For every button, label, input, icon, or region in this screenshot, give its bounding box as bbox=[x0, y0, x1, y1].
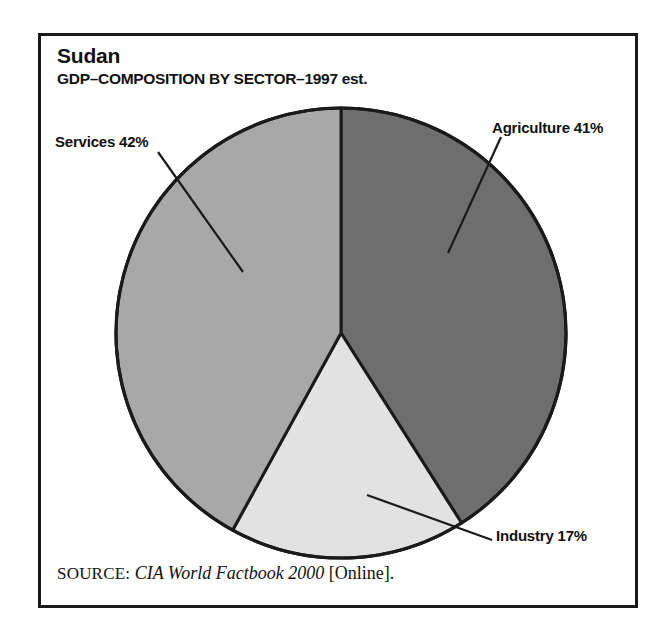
pie-chart-figure: Sudan GDP–COMPOSITION BY SECTOR–1997 est… bbox=[0, 0, 663, 635]
source-work-title: CIA World Factbook 2000 bbox=[135, 563, 325, 583]
pie-label-services: Services 42% bbox=[55, 133, 149, 150]
source-label: SOURCE: bbox=[57, 564, 130, 583]
pie-label-agriculture: Agriculture 41% bbox=[492, 119, 603, 136]
pie-label-industry: Industry 17% bbox=[496, 527, 587, 544]
source-suffix: [Online]. bbox=[329, 563, 394, 583]
source-note: SOURCE: CIA World Factbook 2000 [Online]… bbox=[57, 563, 394, 584]
